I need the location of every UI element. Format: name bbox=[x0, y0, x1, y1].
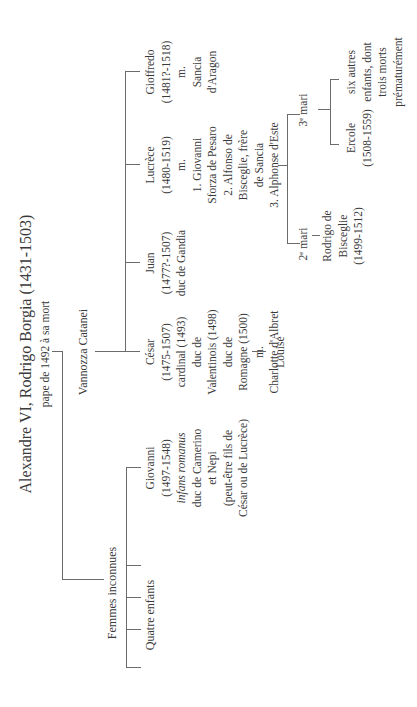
child-giovanni: Giovanni (1497-1548) infans romanus duc … bbox=[143, 419, 252, 517]
grandchild-ercole: Ercole (1508-1559) bbox=[344, 109, 375, 167]
lucrece-marriages-bar bbox=[287, 114, 288, 244]
grandchild-louise: Louise bbox=[273, 336, 289, 367]
3e-mari-children-bar bbox=[330, 79, 331, 145]
stem-louise bbox=[252, 351, 266, 352]
femmes-children-bar bbox=[126, 467, 127, 668]
stem-six-autres bbox=[330, 79, 339, 80]
family-tree-diagram: Alexandre VI, Rodrigo Borgia (1431-1503)… bbox=[0, 0, 417, 707]
stem-enfant-1 bbox=[126, 667, 141, 668]
vannozza-stem bbox=[95, 351, 126, 352]
partner-femmes-inconnues: Femmes inconnues bbox=[105, 547, 121, 639]
stem-enfant-2 bbox=[126, 629, 141, 630]
stem-giovanni bbox=[126, 467, 141, 468]
marriage-2e-mari: 2e mari bbox=[296, 228, 312, 261]
stem-lucrece bbox=[125, 164, 140, 165]
stem-ercole bbox=[330, 144, 339, 145]
partners-bar bbox=[62, 351, 63, 580]
lucrece-marriages-stem bbox=[278, 165, 287, 166]
stem-cesar bbox=[125, 351, 140, 352]
child-gioffredo: Gioffredo (1481?-1518) m. Sancia d'Arago… bbox=[143, 41, 221, 104]
3e-mari-stem bbox=[318, 109, 330, 110]
grandchild-six-autres: six autres enfants, dont trois morts pré… bbox=[344, 37, 406, 107]
partner-vannozza: Vannozza Catanei bbox=[76, 309, 92, 395]
stem-rodrigo bbox=[312, 235, 320, 236]
vannozza-children-bar bbox=[125, 71, 126, 352]
child-lucrece: Lucrèce (1480-1519) m. 1. Giovanni Sforz… bbox=[143, 122, 283, 207]
stem-enfant-3 bbox=[126, 597, 141, 598]
quatre-enfants-label: Quatre enfants bbox=[143, 580, 159, 650]
stem-gioffredo bbox=[125, 71, 140, 72]
child-cesar: César (1475-1507) cardinal (1493) duc de… bbox=[143, 309, 283, 394]
root-subtitle: pape de 1492 à sa mort bbox=[38, 301, 52, 407]
child-juan: Juan (1477?-1507) duc de Gandia bbox=[143, 230, 190, 296]
grandchild-rodrigo: Rodrigo de Bisceglie (1499-1512) bbox=[320, 207, 367, 265]
femmes-stem bbox=[62, 579, 104, 580]
stem-juan bbox=[125, 262, 140, 263]
root-name: Alexandre VI, Rodrigo Borgia (1431-1503) bbox=[17, 215, 35, 494]
marriage-3e-mari: 3e mari bbox=[296, 94, 312, 127]
stem-enfant-4 bbox=[126, 565, 141, 566]
